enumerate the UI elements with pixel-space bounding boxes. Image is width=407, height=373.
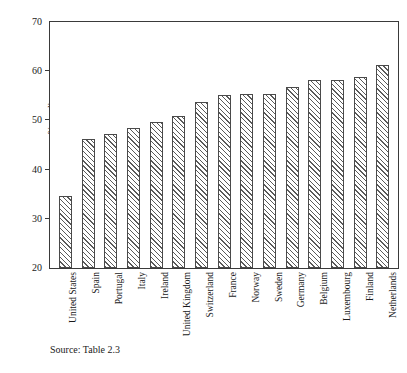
x-label-slot: United States bbox=[53, 272, 76, 334]
bar-series bbox=[50, 22, 398, 268]
bar bbox=[308, 80, 321, 268]
x-label-slot: Spain bbox=[76, 272, 99, 334]
x-label-slot: Norway bbox=[235, 272, 258, 334]
bar-slot bbox=[235, 22, 258, 268]
bar bbox=[286, 87, 299, 268]
y-axis-tick-label: 40 bbox=[20, 163, 42, 176]
bar-slot bbox=[281, 22, 304, 268]
y-axis-tick: 30 bbox=[45, 218, 50, 219]
y-axis-tick-label: 50 bbox=[20, 113, 42, 126]
bar bbox=[195, 102, 208, 268]
y-axis-tick-label: 70 bbox=[20, 15, 42, 28]
x-label-slot: Netherlands bbox=[372, 272, 395, 334]
bar bbox=[104, 134, 117, 268]
x-axis-category-labels: United StatesSpainPortugalItalyIrelandUn… bbox=[49, 272, 399, 334]
x-label-slot: Portugal bbox=[99, 272, 122, 334]
bar-slot bbox=[54, 22, 77, 268]
y-axis-tick-label: 30 bbox=[20, 212, 42, 225]
bar bbox=[172, 116, 185, 268]
x-label-slot: France bbox=[213, 272, 236, 334]
bar bbox=[127, 128, 140, 268]
bar bbox=[331, 80, 344, 268]
x-label-slot: Finland bbox=[349, 272, 372, 334]
source-note: Source: Table 2.3 bbox=[50, 344, 120, 355]
bar bbox=[376, 65, 389, 268]
x-label-slot: Germany bbox=[281, 272, 304, 334]
bar-slot bbox=[145, 22, 168, 268]
y-axis-tick: 60 bbox=[45, 70, 50, 71]
bar-slot bbox=[122, 22, 145, 268]
bar bbox=[59, 196, 72, 268]
bar-slot bbox=[77, 22, 100, 268]
y-axis-tick-label: 20 bbox=[20, 261, 42, 274]
plot-area: 203040506070 bbox=[49, 21, 399, 269]
bar-slot bbox=[349, 22, 372, 268]
bar-chart-figure: % median 203040506070 United StatesSpain… bbox=[0, 0, 407, 373]
bar bbox=[218, 95, 231, 268]
bar bbox=[240, 94, 253, 268]
bar-slot bbox=[167, 22, 190, 268]
bar bbox=[150, 122, 163, 268]
bar bbox=[263, 94, 276, 268]
bar-slot bbox=[99, 22, 122, 268]
y-axis-tick: 40 bbox=[45, 169, 50, 170]
bar-slot bbox=[213, 22, 236, 268]
bar-slot bbox=[326, 22, 349, 268]
bar-slot bbox=[190, 22, 213, 268]
bar bbox=[354, 77, 367, 268]
bar bbox=[82, 139, 95, 268]
x-label-slot: Belgium bbox=[304, 272, 327, 334]
x-label-slot: Italy bbox=[121, 272, 144, 334]
x-axis-category-label: Netherlands bbox=[388, 272, 398, 318]
x-label-slot: Sweden bbox=[258, 272, 281, 334]
bar-slot bbox=[371, 22, 394, 268]
x-label-slot: Switzerland bbox=[190, 272, 213, 334]
bar-slot bbox=[258, 22, 281, 268]
x-label-slot: United Kingdom bbox=[167, 272, 190, 334]
y-axis-tick: 50 bbox=[45, 119, 50, 120]
bar-slot bbox=[303, 22, 326, 268]
y-axis-tick-label: 60 bbox=[20, 64, 42, 77]
x-label-slot: Luxembourg bbox=[327, 272, 350, 334]
x-label-slot: Ireland bbox=[144, 272, 167, 334]
